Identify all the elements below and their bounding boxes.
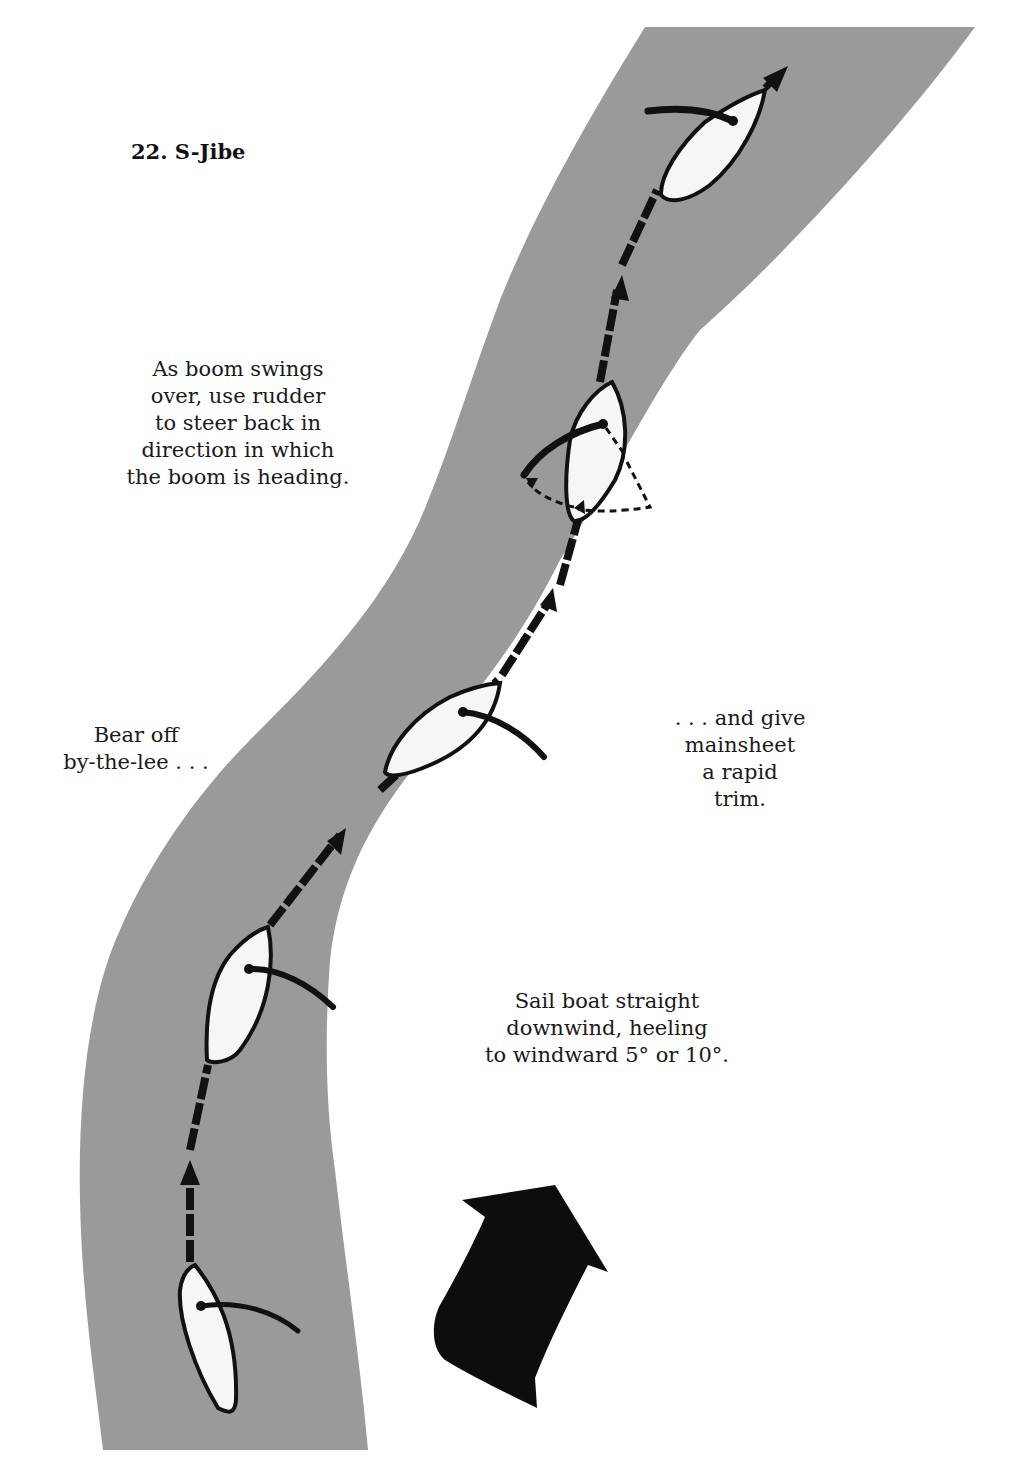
diagram-title: 22. S-Jibe [131, 139, 245, 164]
annotation-sail-straight: Sail boat straight downwind, heeling to … [462, 988, 752, 1069]
wind-direction-arrow [434, 1185, 608, 1408]
annotation-bear-off: Bear off by-the-lee . . . [36, 722, 236, 776]
s-jibe-diagram: 22. S-Jibe As boom swings over, use rudd… [0, 0, 1010, 1477]
annotation-mainsheet: . . . and give mainsheet a rapid trim. [650, 705, 830, 813]
annotation-boom-swing: As boom swings over, use rudder to steer… [108, 356, 368, 491]
